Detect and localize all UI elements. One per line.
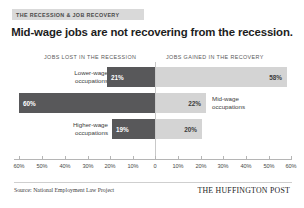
row-label-line2: occupations	[74, 77, 108, 85]
table-row: Lower-wage occupations 21% 58%	[0, 67, 304, 87]
chart-plot-area: Lower-wage occupations 21% 58% 60% 22% M…	[0, 64, 304, 150]
x-axis-tick	[88, 156, 89, 160]
x-axis-tick	[223, 156, 224, 160]
row-label-line1: Higher-wage	[73, 121, 108, 129]
page-title: Mid-wage jobs are not recovering from th…	[0, 26, 304, 38]
x-axis-tick	[201, 156, 202, 160]
source-note: Source: National Employment Law Project	[14, 187, 114, 193]
bar-left-higher-wage: 19%	[112, 119, 155, 139]
x-axis-tick-label: 40%	[59, 163, 70, 169]
x-axis-tick	[110, 156, 111, 160]
x-axis-tick-label: 10%	[172, 163, 183, 169]
bar-value-left-lower-wage: 21%	[111, 74, 124, 81]
row-label-line1: Mid-wage	[212, 95, 245, 103]
bar-value-right-lower-wage: 58%	[269, 74, 282, 81]
row-label-line1: Lower-wage	[74, 69, 108, 77]
x-axis-tick	[155, 156, 156, 160]
table-row: Higher-wage occupations 19% 20%	[0, 119, 304, 139]
x-axis-tick-label: 10%	[127, 163, 138, 169]
x-axis-tick	[42, 156, 43, 160]
column-header-jobs-lost: JOBS LOST IN THE RECESSION	[44, 54, 136, 60]
x-axis-tick-label: 30%	[82, 163, 93, 169]
x-axis-tick-label: 60%	[285, 163, 296, 169]
x-axis-tick-label: 60%	[13, 163, 24, 169]
x-axis-tick	[19, 156, 20, 160]
kicker-banner: THE RECESSION & JOB RECOVERY	[12, 9, 144, 20]
x-axis-tick-label: 20%	[195, 163, 206, 169]
x-axis-tick-label: 40%	[240, 163, 251, 169]
bar-right-higher-wage: 20%	[156, 119, 202, 139]
table-row: 60% 22% Mid-wage occupations	[0, 93, 304, 113]
x-axis-tick-label: 30%	[217, 163, 228, 169]
x-axis-tick	[269, 156, 270, 160]
x-axis-line	[14, 159, 292, 160]
x-axis-tick	[246, 156, 247, 160]
row-label-line2: occupations	[73, 129, 108, 137]
bar-value-right-mid-wage: 22%	[188, 100, 201, 107]
x-axis-tick-label: 20%	[104, 163, 115, 169]
row-label-lower-wage: Lower-wage occupations	[74, 69, 108, 84]
bar-right-mid-wage: 22%	[156, 93, 206, 113]
publisher-logo: THE HUFFINGTON POST	[197, 186, 290, 195]
column-header-jobs-gained: JOBS GAINED IN THE RECOVERY	[166, 54, 264, 60]
x-axis-tick	[65, 156, 66, 160]
bar-right-lower-wage: 58%	[156, 67, 287, 87]
row-label-line2: occupations	[212, 103, 245, 111]
x-axis-tick	[133, 156, 134, 160]
bar-value-left-mid-wage: 60%	[23, 100, 36, 107]
x-axis-tick-label: 50%	[36, 163, 47, 169]
row-label-higher-wage: Higher-wage occupations	[73, 121, 108, 136]
bar-value-right-higher-wage: 20%	[184, 126, 197, 133]
footer-divider	[14, 182, 292, 183]
bar-left-mid-wage: 60%	[19, 93, 155, 113]
infographic-page: THE RECESSION & JOB RECOVERY Mid-wage jo…	[0, 0, 304, 208]
bar-left-lower-wage: 21%	[107, 67, 155, 87]
x-axis-tick-label: 50%	[263, 163, 274, 169]
bar-value-left-higher-wage: 19%	[116, 126, 129, 133]
row-label-mid-wage: Mid-wage occupations	[212, 95, 245, 110]
kicker-label: THE RECESSION & JOB RECOVERY	[16, 12, 119, 18]
x-axis-tick	[291, 156, 292, 160]
x-axis-tick-label: 0	[153, 163, 156, 169]
x-axis-tick	[178, 156, 179, 160]
